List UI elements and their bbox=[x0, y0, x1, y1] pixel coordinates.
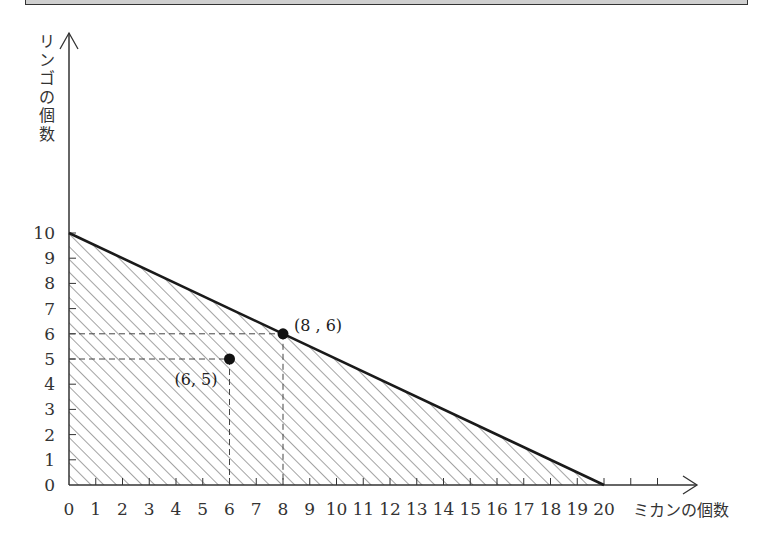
x-tick-label: 14 bbox=[433, 499, 455, 519]
x-tick-label: 19 bbox=[566, 499, 588, 519]
data-point bbox=[278, 328, 289, 339]
x-tick-label: 3 bbox=[144, 499, 155, 519]
x-tick-label: 20 bbox=[593, 499, 615, 519]
y-axis-label-char: ン bbox=[39, 51, 55, 70]
y-axis-label-char: 個 bbox=[39, 106, 55, 125]
x-tick-labels: 01234567891011121314151617181920 bbox=[64, 499, 615, 519]
y-tick-label: 10 bbox=[33, 223, 55, 243]
y-tick-label: 7 bbox=[44, 299, 55, 319]
y-tick-label: 8 bbox=[44, 273, 55, 293]
y-tick-label: 3 bbox=[44, 399, 55, 419]
x-tick-label: 1 bbox=[90, 499, 101, 519]
x-tick-label: 8 bbox=[278, 499, 289, 519]
data-point bbox=[224, 354, 235, 365]
x-tick-label: 18 bbox=[540, 499, 562, 519]
point-label-6-5: (6, 5) bbox=[175, 370, 218, 389]
y-tick-label: 2 bbox=[44, 425, 55, 445]
x-tick-label: 15 bbox=[459, 499, 481, 519]
x-tick-label: 12 bbox=[379, 499, 401, 519]
y-axis-label-char: の bbox=[39, 88, 55, 107]
chart-canvas: (8 , 6)(6, 5) 01234567891011121314151617… bbox=[0, 0, 775, 547]
y-tick-label: 5 bbox=[44, 349, 55, 369]
x-tick-label: 11 bbox=[352, 499, 374, 519]
y-tick-label: 4 bbox=[44, 374, 55, 394]
x-tick-label: 7 bbox=[251, 499, 262, 519]
x-axis-label: ミカンの個数 bbox=[633, 501, 729, 520]
y-tick-labels: 012345678910 bbox=[33, 223, 55, 495]
x-tick-label: 2 bbox=[117, 499, 128, 519]
x-tick-label: 4 bbox=[171, 499, 182, 519]
x-tick-label: 9 bbox=[304, 499, 315, 519]
x-tick-label: 10 bbox=[326, 499, 348, 519]
y-tick-label: 1 bbox=[44, 450, 55, 470]
y-axis-label-char: 数 bbox=[39, 125, 55, 144]
x-tick-label: 16 bbox=[486, 499, 508, 519]
y-tick-label: 6 bbox=[44, 324, 55, 344]
y-axis-label-char: リ bbox=[39, 32, 55, 51]
x-tick-label: 17 bbox=[513, 499, 535, 519]
x-tick-label: 6 bbox=[224, 499, 235, 519]
y-axis-label-char: ゴ bbox=[39, 69, 55, 88]
point-label-8-6: (8 , 6) bbox=[294, 316, 342, 335]
x-tick-label: 13 bbox=[406, 499, 428, 519]
y-tick-label: 9 bbox=[44, 248, 55, 268]
y-tick-label: 0 bbox=[44, 475, 55, 495]
x-tick-label: 5 bbox=[197, 499, 208, 519]
x-tick-label: 0 bbox=[64, 499, 75, 519]
